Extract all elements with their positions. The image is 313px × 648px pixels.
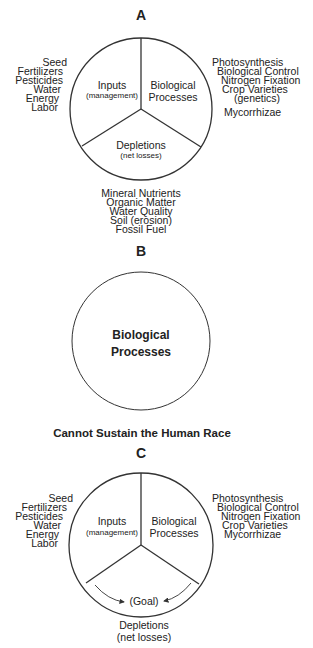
- panel-b-circle-line2: Processes: [111, 345, 171, 359]
- panel-c-depletions-label: Depletions (net losses): [117, 619, 171, 643]
- panel-a-label: A: [136, 7, 146, 23]
- list-item: Labor: [31, 537, 58, 549]
- panel-a-biological-list: Photosynthesis Biological Control Nitrog…: [212, 56, 301, 118]
- panel-c: C Inputs (management) Biological Process…: [15, 445, 300, 643]
- panel-c-spoke-left: [86, 545, 141, 583]
- diagram-canvas: A Inputs (management) Biological Process…: [0, 0, 313, 648]
- panel-b: B Biological Processes Cannot Sustain th…: [53, 243, 231, 439]
- panel-c-label: C: [136, 445, 146, 461]
- sector-depletions-title: Depletions: [116, 139, 166, 151]
- list-item: Labor: [31, 101, 58, 113]
- list-item: Mycorrhizae: [224, 528, 281, 540]
- panel-c-spoke-right: [141, 545, 199, 584]
- panel-b-caption: Cannot Sustain the Human Race: [53, 427, 231, 439]
- panel-c-biological-list: Photosynthesis Biological Control Nitrog…: [212, 492, 301, 540]
- sector-biological-line1: Biological: [151, 79, 196, 91]
- panel-c-sector-inputs: Inputs (management): [86, 515, 138, 537]
- panel-a-sector-biological: Biological Processes: [148, 79, 197, 103]
- list-item: Mycorrhizae: [224, 106, 281, 118]
- panel-b-circle-line1: Biological: [112, 328, 169, 342]
- goal-arrow-right-icon: [164, 583, 191, 601]
- panel-a-sector-inputs: Inputs (management): [86, 79, 138, 100]
- sector-biological-line2: Processes: [149, 527, 198, 539]
- list-item: (genetics): [234, 92, 280, 104]
- goal-label: (Goal): [129, 595, 158, 607]
- panel-a: A Inputs (management) Biological Process…: [15, 7, 300, 235]
- panel-a-sector-depletions: Depletions (net losses): [116, 139, 166, 160]
- list-item: Fossil Fuel: [116, 223, 167, 235]
- panel-c-sector-biological: Biological Processes: [149, 515, 198, 539]
- depletions-title: Depletions: [119, 619, 169, 631]
- panel-a-inputs-list: Seed Fertilizers Pesticides Water Energy…: [15, 56, 67, 113]
- sector-biological-line1: Biological: [152, 515, 197, 527]
- sector-inputs-title: Inputs: [98, 79, 127, 91]
- sector-inputs-title: Inputs: [98, 515, 127, 527]
- panel-a-depletions-list: Mineral Nutrients Organic Matter Water Q…: [101, 187, 180, 235]
- sector-depletions-subtitle: (net losses): [120, 151, 162, 160]
- goal-arrow-left-icon: [95, 585, 124, 602]
- sector-inputs-subtitle: (management): [86, 528, 138, 537]
- sector-inputs-subtitle: (management): [86, 91, 138, 100]
- sector-biological-line2: Processes: [148, 91, 197, 103]
- panel-c-inputs-list: Seed Fertilizers Pesticides Water Energy…: [15, 492, 73, 549]
- panel-b-label: B: [136, 243, 146, 259]
- depletions-subtitle: (net losses): [117, 631, 171, 643]
